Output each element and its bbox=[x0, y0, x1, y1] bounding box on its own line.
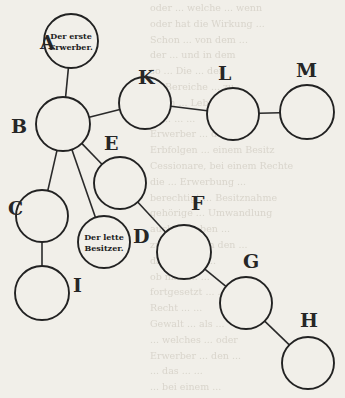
edge-b-c bbox=[48, 150, 57, 190]
node-inner-text: Besitzer. bbox=[85, 243, 124, 253]
node-b: B bbox=[11, 97, 90, 151]
node-label: B bbox=[11, 115, 27, 137]
node-a: ADer ersteErwerber. bbox=[39, 14, 98, 68]
edge-b-d bbox=[72, 150, 96, 218]
node-label: F bbox=[191, 192, 205, 214]
node-g: G bbox=[220, 250, 272, 329]
node-circle bbox=[220, 277, 272, 329]
node-label: K bbox=[138, 66, 156, 88]
edge-l-m bbox=[259, 113, 280, 114]
node-circle bbox=[282, 337, 334, 389]
node-inner-text: Der lette bbox=[84, 232, 124, 242]
edge-g-h bbox=[265, 321, 290, 345]
edge-f-g bbox=[205, 269, 226, 286]
node-label: M bbox=[296, 59, 317, 81]
node-k: K bbox=[119, 66, 171, 129]
node-circle bbox=[94, 157, 146, 209]
node-m: M bbox=[280, 59, 334, 139]
node-circle bbox=[16, 190, 68, 242]
edge-k-l bbox=[171, 106, 207, 111]
node-l: L bbox=[207, 62, 259, 140]
node-circle bbox=[15, 266, 69, 320]
node-e: E bbox=[94, 132, 146, 209]
node-inner-text: Der erste bbox=[50, 31, 92, 41]
node-label: L bbox=[218, 62, 231, 84]
node-circle bbox=[280, 85, 334, 139]
node-label: C bbox=[8, 197, 23, 219]
node-c: C bbox=[8, 190, 68, 242]
node-circle bbox=[78, 216, 130, 268]
edge-a-b bbox=[66, 68, 69, 97]
node-label: I bbox=[73, 274, 82, 296]
node-d: DDer letteBesitzer. bbox=[78, 216, 149, 268]
node-label: D bbox=[133, 225, 149, 247]
node-inner-text: Erwerber. bbox=[49, 42, 93, 52]
edge-b-k bbox=[89, 109, 120, 117]
node-circle bbox=[207, 88, 259, 140]
nodes-group: ADer ersteErwerber.BKLMECDDer letteBesit… bbox=[8, 14, 334, 389]
node-label: E bbox=[104, 132, 118, 154]
node-label: H bbox=[300, 309, 318, 331]
node-circle bbox=[157, 225, 211, 279]
node-f: F bbox=[157, 192, 211, 279]
node-circle bbox=[36, 97, 90, 151]
edge-b-e bbox=[82, 143, 102, 164]
node-h: H bbox=[282, 309, 334, 389]
node-i: I bbox=[15, 266, 82, 320]
node-label: G bbox=[243, 250, 259, 272]
succession-diagram: ADer ersteErwerber.BKLMECDDer letteBesit… bbox=[0, 0, 345, 398]
